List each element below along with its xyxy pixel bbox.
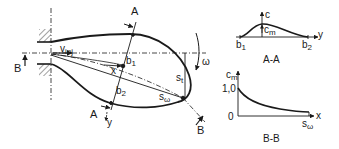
aa-label-cm: cm bbox=[264, 25, 276, 37]
bb-tick-0: 0 bbox=[228, 112, 234, 122]
bb-label-cm: cm bbox=[226, 70, 238, 82]
s-omega-point bbox=[181, 96, 185, 100]
b1-point bbox=[121, 64, 125, 68]
diagram-canvas bbox=[0, 0, 339, 149]
bb-label-s-omega: sω bbox=[302, 119, 313, 131]
wall-hatch-upper bbox=[39, 29, 51, 42]
b2-point bbox=[110, 102, 113, 105]
label-omega: ω bbox=[202, 57, 210, 67]
bb-tick-1: 1,0 bbox=[222, 84, 236, 94]
label-b1: b1 bbox=[126, 56, 136, 68]
wall-hatch-lower bbox=[39, 64, 51, 76]
aa-label-b2: b2 bbox=[302, 40, 312, 52]
label-section-a-top: A bbox=[131, 6, 138, 17]
bb-decay-curve bbox=[238, 88, 309, 112]
bb-title: B-B bbox=[263, 134, 280, 144]
aa-label-c: c bbox=[265, 10, 270, 20]
label-v-inj: vinj bbox=[60, 44, 73, 56]
aa-label-y: y bbox=[318, 30, 323, 40]
label-section-b-left: B bbox=[14, 63, 21, 74]
section-a-arrow-top bbox=[124, 24, 133, 27]
bb-label-x: x bbox=[316, 111, 321, 121]
section-a-arrow-bottom bbox=[101, 106, 110, 108]
label-b2: b2 bbox=[116, 86, 126, 98]
aa-title: A-A bbox=[263, 55, 280, 65]
omega-arrow bbox=[196, 33, 199, 70]
label-x: x bbox=[111, 66, 116, 76]
section-bb-plot bbox=[238, 71, 314, 116]
label-section-b-right: B bbox=[197, 125, 204, 136]
label-y: y bbox=[107, 118, 112, 128]
label-section-a-bottom: A bbox=[90, 109, 97, 120]
label-s-t: st bbox=[176, 73, 183, 85]
section-aa-plot bbox=[236, 12, 318, 39]
label-s-omega: sω bbox=[159, 92, 170, 104]
b1-edge-point bbox=[132, 34, 135, 37]
aa-label-b1: b1 bbox=[236, 40, 246, 52]
